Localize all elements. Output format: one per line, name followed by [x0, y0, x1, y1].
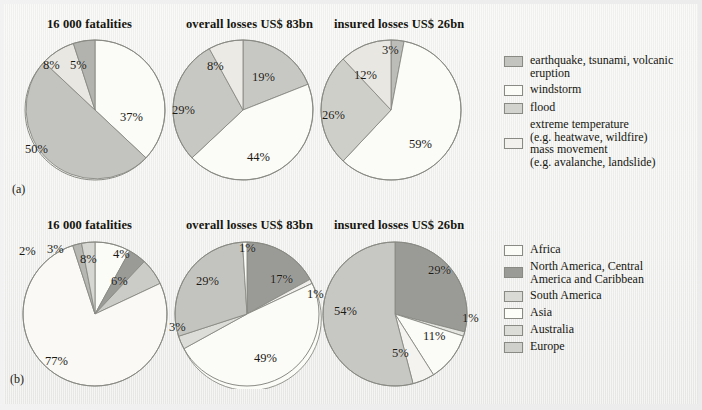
pct-b1-2: 8% — [80, 252, 97, 267]
legend-label-australia: Australia — [530, 323, 574, 336]
pct-a2-3: 44% — [247, 150, 270, 165]
pct-b2-1: 17% — [270, 272, 293, 287]
pct-a3-2: 26% — [322, 108, 345, 123]
legend-swatch-asia — [504, 308, 523, 319]
pct-b1-3: 4% — [113, 247, 130, 262]
legend-swatch-south-america — [504, 291, 523, 302]
pct-a1-0: 8% — [43, 58, 60, 73]
legend-item-europe: Europe — [504, 340, 694, 353]
legend-item-earthquake: earthquake, tsunami, volcanic eruption — [504, 54, 694, 79]
legend-item-australia: Australia — [504, 323, 694, 336]
legend-label-windstorm: windstorm — [530, 83, 581, 96]
pct-b1-0: 2% — [19, 244, 36, 259]
legend-item-south-america: South America — [504, 289, 694, 302]
pct-b3-3: 5% — [392, 346, 409, 361]
pct-a2-2: 29% — [172, 103, 195, 118]
legend-swatch-extreme-temperature — [504, 138, 523, 149]
legend-label-asia: Asia — [530, 306, 552, 319]
legend-regions: Africa North America, Central America an… — [504, 243, 694, 357]
legend-swatch-australia — [504, 325, 523, 336]
pie-svg-b2 — [172, 239, 322, 389]
pct-a3-1: 12% — [354, 68, 377, 83]
legend-swatch-earthquake — [504, 56, 523, 67]
legend-item-north-america: North America, Central America and Carib… — [504, 260, 694, 285]
pie-title-a3: insured losses US$ 26bn — [334, 17, 464, 32]
legend-swatch-flood — [504, 103, 523, 114]
legend-item-windstorm: windstorm — [504, 83, 694, 96]
pct-a1-1: 5% — [70, 58, 87, 73]
pct-a1-3: 50% — [25, 142, 48, 157]
pie-title-b3: insured losses US$ 26bn — [334, 218, 464, 233]
pct-a2-0: 8% — [207, 59, 224, 74]
pct-b3-0: 29% — [428, 263, 451, 278]
pie-title-a1: 16 000 fatalities — [47, 17, 132, 32]
legend-label-africa: Africa — [530, 243, 561, 256]
pct-a3-0: 3% — [382, 43, 399, 58]
legend-item-africa: Africa — [504, 243, 694, 256]
legend-label-europe: Europe — [530, 340, 565, 353]
legend-item-flood: flood — [504, 101, 694, 114]
pct-b1-4: 6% — [111, 274, 128, 289]
pct-b3-4: 54% — [334, 304, 357, 319]
pct-b1-5: 77% — [45, 354, 68, 369]
pct-a3-3: 59% — [409, 137, 432, 152]
pct-b2-0: 1% — [239, 241, 256, 256]
pct-b2-4: 3% — [169, 320, 186, 335]
pct-b1-1: 3% — [47, 242, 64, 257]
legend-hazard-types: earthquake, tsunami, volcanic eruption w… — [504, 54, 694, 173]
pct-a1-2: 37% — [120, 110, 143, 125]
legend-label-extreme-temperature: extreme temperature (e.g. heatwave, wild… — [530, 118, 656, 168]
pct-b3-1: 1% — [462, 311, 479, 326]
figure-container: 16 000 fatalities overall losses US$ 83b… — [0, 0, 702, 410]
pie-chart-b2 — [172, 239, 322, 389]
legend-label-earthquake: earthquake, tsunami, volcanic eruption — [530, 54, 673, 79]
legend-item-extreme-temperature: extreme temperature (e.g. heatwave, wild… — [504, 118, 694, 168]
pie-title-a2: overall losses US$ 83bn — [186, 17, 313, 32]
pie-title-b1: 16 000 fatalities — [47, 218, 132, 233]
legend-label-flood: flood — [530, 101, 555, 114]
pct-b2-3: 29% — [196, 274, 219, 289]
pct-a2-1: 19% — [252, 70, 275, 85]
legend-item-asia: Asia — [504, 306, 694, 319]
pct-b2-5: 49% — [254, 351, 277, 366]
pie-title-b2: overall losses US$ 83bn — [186, 218, 313, 233]
panel-a-label: (a) — [12, 182, 25, 197]
pct-b3-2: 11% — [423, 329, 445, 344]
legend-swatch-windstorm — [504, 85, 523, 96]
legend-label-south-america: South America — [530, 289, 602, 302]
panel-b-label: (b) — [10, 372, 24, 387]
legend-label-north-america: North America, Central America and Carib… — [530, 260, 644, 285]
legend-swatch-europe — [504, 342, 523, 353]
legend-swatch-africa — [504, 245, 523, 256]
legend-swatch-north-america — [504, 267, 523, 278]
